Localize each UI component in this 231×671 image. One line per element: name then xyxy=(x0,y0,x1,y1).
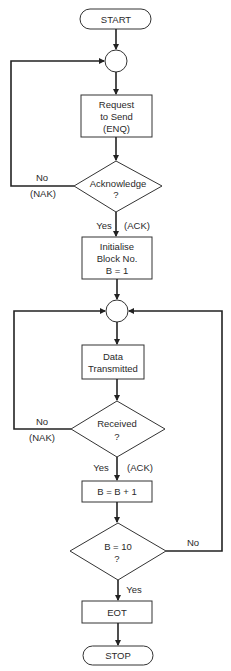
data-line-2: Transmitted xyxy=(88,363,138,374)
label-ack-ack: (ACK) xyxy=(124,220,150,231)
acknowledge-line-2: ? xyxy=(113,189,118,200)
acknowledge-decision: Acknowledge ? xyxy=(74,161,162,212)
received-line-1: Received xyxy=(97,418,137,429)
check-line-2: ? xyxy=(114,553,119,564)
received-decision: Received ? xyxy=(71,401,165,457)
label-ack-no: No xyxy=(36,172,48,183)
eot-box: EOT xyxy=(82,601,152,623)
label-check-no: No xyxy=(187,537,199,548)
label-recv-ack: (ACK) xyxy=(127,462,153,473)
initialise-line-3: B = 1 xyxy=(106,265,128,276)
label-recv-no: No xyxy=(36,416,48,427)
label-recv-nak: (NAK) xyxy=(29,432,55,443)
label-check-yes: Yes xyxy=(126,584,142,595)
increment-label: B = B + 1 xyxy=(97,486,137,497)
junction-circle-2 xyxy=(106,300,128,322)
acknowledge-line-1: Acknowledge xyxy=(90,178,147,189)
request-line-3: (ENQ) xyxy=(103,123,130,134)
request-line-2: to Send xyxy=(100,111,133,122)
initialise-box: Initialise Block No. B = 1 xyxy=(82,237,152,279)
data-transmitted-box: Data Transmitted xyxy=(82,345,144,379)
initialise-line-2: Block No. xyxy=(97,253,138,264)
initialise-line-1: Initialise xyxy=(100,241,134,252)
request-to-send-box: Request to Send (ENQ) xyxy=(81,95,152,137)
received-line-2: ? xyxy=(114,431,119,442)
check-line-1: B = 10 xyxy=(104,541,132,552)
flowchart: START Request to Send (ENQ) Acknowledge … xyxy=(0,0,231,671)
eot-label: EOT xyxy=(107,607,127,618)
junction-circle-1 xyxy=(105,50,127,72)
data-line-1: Data xyxy=(103,351,124,362)
stop-label: STOP xyxy=(105,650,131,661)
increment-box: B = B + 1 xyxy=(82,481,152,502)
check-decision: B = 10 ? xyxy=(70,523,166,580)
request-line-1: Request xyxy=(99,99,135,110)
stop-terminal: STOP xyxy=(83,646,153,665)
start-label: START xyxy=(101,14,131,25)
start-terminal: START xyxy=(80,9,151,29)
label-ack-yes: Yes xyxy=(96,220,112,231)
label-recv-yes: Yes xyxy=(93,462,109,473)
label-ack-nak: (NAK) xyxy=(30,188,56,199)
